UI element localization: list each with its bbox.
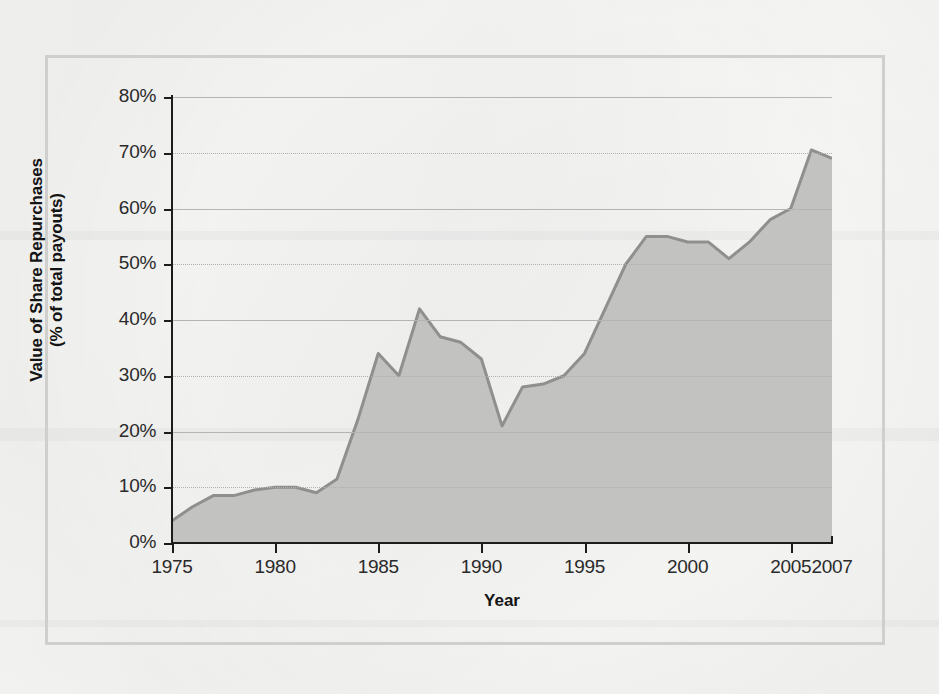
gridline-70: [172, 153, 832, 154]
gridline-10: [172, 487, 832, 488]
x-tick-1995: [585, 544, 587, 553]
x-tick-2005: [791, 544, 793, 553]
y-tick-label-60: 60%: [86, 197, 156, 219]
x-tick-label-1980: 1980: [240, 556, 310, 578]
x-tick-label-2000: 2000: [653, 556, 723, 578]
area-chart: 0%10%20%30%40%50%60%70%80% 1975198019851…: [0, 0, 939, 694]
y-tick-label-10: 10%: [86, 475, 156, 497]
y-tick-label-0: 0%: [86, 531, 156, 553]
x-tick-1990: [481, 544, 483, 553]
x-tick-1980: [275, 544, 277, 553]
y-tick-label-30: 30%: [86, 364, 156, 386]
y-axis-title-line2: (% of total payouts): [47, 193, 66, 347]
x-axis-right-cap-tick: [831, 536, 833, 544]
x-tick-label-1995: 1995: [550, 556, 620, 578]
x-tick-label-1990: 1990: [446, 556, 516, 578]
y-axis-title-line1: Value of Share Repurchases: [27, 158, 46, 381]
y-tick-label-50: 50%: [86, 252, 156, 274]
gridline-40: [172, 320, 832, 321]
gridline-20: [172, 432, 832, 433]
y-axis-title: Value of Share Repurchases (% of total p…: [27, 105, 67, 435]
x-tick-label-1985: 1985: [343, 556, 413, 578]
x-tick-1975: [172, 544, 174, 553]
gridline-80: [172, 97, 832, 98]
y-tick-label-70: 70%: [86, 141, 156, 163]
gridline-50: [172, 264, 832, 265]
y-tick-label-80: 80%: [86, 85, 156, 107]
x-tick-1985: [378, 544, 380, 553]
y-tick-label-20: 20%: [86, 420, 156, 442]
x-axis-line: [171, 542, 833, 544]
gridline-60: [172, 209, 832, 210]
x-tick-2000: [688, 544, 690, 553]
x-tick-label-2007: 2007: [797, 556, 867, 578]
x-axis-title: Year: [171, 591, 833, 611]
gridline-30: [172, 376, 832, 377]
x-axis-left-cap-tick: [171, 536, 173, 544]
x-tick-label-1975: 1975: [137, 556, 207, 578]
y-tick-label-40: 40%: [86, 308, 156, 330]
y-axis-line: [171, 95, 173, 545]
